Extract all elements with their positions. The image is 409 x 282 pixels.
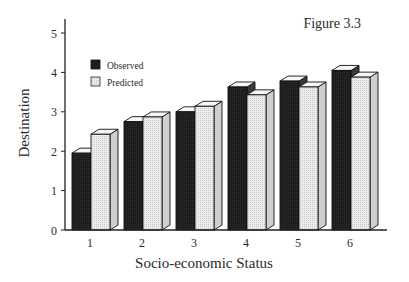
x-tick-label: 2	[139, 236, 145, 250]
bar-observed	[332, 70, 351, 230]
bar-side-predicted	[266, 90, 274, 230]
bar-group-2	[124, 112, 170, 230]
legend-swatch-observed	[91, 60, 100, 69]
x-tick-label: 1	[87, 236, 93, 250]
x-tick-label: 4	[243, 236, 249, 250]
figure-title: Figure 3.3	[303, 16, 361, 31]
bar-predicted	[91, 134, 110, 230]
bar-side-predicted	[214, 101, 222, 230]
y-tick-label: 3	[51, 105, 57, 119]
y-tick-label: 5	[51, 27, 57, 41]
bar-group-4	[228, 82, 274, 230]
bar-group-3	[176, 101, 222, 230]
bar-predicted	[195, 106, 214, 230]
bar-side-predicted	[370, 72, 378, 230]
y-tick-label: 0	[51, 224, 57, 238]
bar-observed	[228, 87, 247, 230]
legend-swatch-predicted	[91, 77, 100, 86]
bar-observed	[280, 81, 299, 230]
y-tick-label: 4	[51, 66, 57, 80]
bars	[72, 65, 378, 230]
x-tick-label: 6	[347, 236, 353, 250]
bar-side-predicted	[162, 112, 170, 230]
x-axis-ticks: 123456	[87, 236, 353, 250]
legend: Observed Predicted	[91, 60, 144, 88]
y-tick-label: 2	[51, 145, 57, 159]
bar-predicted	[299, 87, 318, 230]
bar-group-6	[332, 65, 378, 230]
bar-predicted	[143, 117, 162, 230]
bar-group-5	[280, 76, 326, 230]
y-tick-label: 1	[51, 184, 57, 198]
bar-observed	[72, 153, 91, 230]
bar-group-1	[72, 129, 118, 230]
x-axis-label: Socio-economic Status	[135, 255, 273, 271]
legend-label-predicted: Predicted	[107, 78, 143, 88]
x-tick-label: 3	[191, 236, 197, 250]
bar-side-predicted	[318, 82, 326, 230]
x-tick-label: 5	[295, 236, 301, 250]
legend-label-observed: Observed	[107, 61, 144, 71]
bar-observed	[124, 122, 143, 230]
bar-predicted	[351, 77, 370, 230]
y-axis-label: Destination	[16, 88, 32, 158]
bar-observed	[176, 112, 195, 230]
bar-chart: Figure 3.3 Destination Socio-economic St…	[0, 0, 409, 282]
bar-side-predicted	[110, 129, 118, 230]
bar-predicted	[247, 95, 266, 230]
y-axis-ticks: 012345	[51, 27, 65, 238]
